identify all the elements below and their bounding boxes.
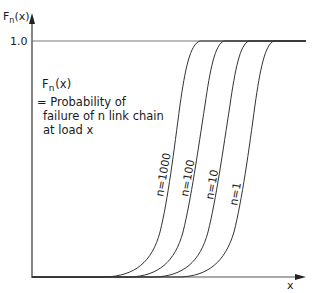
y-axis-arrow-icon xyxy=(29,13,35,24)
label-n-10: n=10 xyxy=(203,169,221,201)
svg-text:= Probability of: = Probability of xyxy=(37,95,127,109)
x-axis-label: x xyxy=(287,279,294,292)
y-tick-label: 1.0 xyxy=(10,35,28,48)
label-n-100: n=100 xyxy=(178,159,197,198)
x-axis-arrow-icon xyxy=(295,274,306,280)
y-axis xyxy=(29,13,35,278)
description-annotation: Fn(x) = Probability of failure of n link… xyxy=(37,77,164,137)
label-n-1: n=1 xyxy=(227,181,244,206)
svg-text:at load x: at load x xyxy=(43,123,93,137)
svg-text:failure of n link chain: failure of n link chain xyxy=(43,109,164,123)
chart: Fn(x) 1.0 x Fn(x) = Probability of failu… xyxy=(0,0,320,293)
y-axis-label: Fn(x) xyxy=(3,10,30,25)
svg-text:Fn(x): Fn(x) xyxy=(42,77,71,93)
